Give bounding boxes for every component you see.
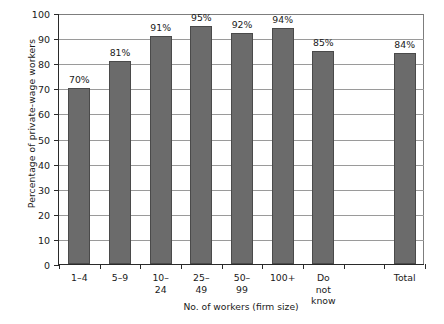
bar[interactable]	[190, 26, 212, 264]
category-slot: 81%5–9	[100, 14, 141, 264]
x-axis-tick-label: 1–4	[71, 272, 87, 284]
x-axis-tick	[181, 264, 182, 269]
bar-value-label: 84%	[394, 39, 415, 50]
y-axis-tick-label: 0	[44, 260, 50, 271]
x-axis-tick-label: 100+	[270, 272, 296, 284]
x-axis-tick	[384, 264, 385, 269]
category-slot	[344, 14, 385, 264]
bar-value-label: 94%	[272, 14, 293, 25]
y-axis-tick-label: 80	[38, 59, 50, 70]
category-slot: 91%10–24	[140, 14, 181, 264]
y-axis-tick-label: 20	[38, 209, 50, 220]
x-axis-tick-label: Total	[394, 272, 416, 284]
y-axis-tick-label: 100	[32, 9, 50, 20]
category-slot: 84%Total	[384, 14, 425, 264]
x-axis-tick-label: 10–24	[150, 272, 170, 295]
bar[interactable]	[109, 61, 131, 264]
x-axis-tick-label: 25–49	[191, 272, 211, 295]
category-slot: 85%Do not know	[303, 14, 344, 264]
bar[interactable]	[394, 53, 416, 264]
bar-value-label: 95%	[191, 12, 212, 23]
y-axis-tick-label: 70	[38, 84, 50, 95]
category-slot: 92%50–99	[222, 14, 263, 264]
x-axis-tick	[100, 264, 101, 269]
x-axis-tick-label: 50–99	[232, 272, 252, 295]
y-axis-title: Percentage of private-wage workers	[26, 0, 37, 249]
bar-value-label: 91%	[150, 22, 171, 33]
y-axis-tick-label: 50	[38, 134, 50, 145]
bar-chart: Percentage of private-wage workers 01020…	[0, 0, 444, 324]
category-slot: 70%1–4	[59, 14, 100, 264]
x-axis-tick-label: 5–9	[112, 272, 128, 284]
x-axis-tick	[262, 264, 263, 269]
x-axis-tick	[222, 264, 223, 269]
x-axis-tick	[140, 264, 141, 269]
y-axis-tick-label: 60	[38, 109, 50, 120]
bar[interactable]	[68, 88, 90, 264]
x-axis-tick	[303, 264, 304, 269]
y-axis-tick-label: 30	[38, 184, 50, 195]
category-slot: 95%25–49	[181, 14, 222, 264]
bar-value-label: 85%	[313, 37, 334, 48]
y-axis-tick-label: 10	[38, 234, 50, 245]
bar[interactable]	[150, 36, 172, 264]
y-axis-tick-label: 40	[38, 159, 50, 170]
category-slot: 94%100+	[262, 14, 303, 264]
x-axis-tick	[344, 264, 345, 269]
bar[interactable]	[312, 51, 334, 264]
x-axis-title: No. of workers (firm size)	[58, 301, 424, 312]
bar-value-label: 70%	[69, 74, 90, 85]
bar[interactable]	[231, 33, 253, 264]
bar-value-label: 92%	[232, 19, 253, 30]
x-axis-tick	[59, 264, 60, 269]
bar-series: 70%1–481%5–991%10–2495%25–4992%50–9994%1…	[59, 14, 424, 264]
bar[interactable]	[272, 28, 294, 264]
y-axis-tick-label: 90	[38, 34, 50, 45]
plot-area: 0102030405060708090100 70%1–481%5–991%10…	[58, 14, 424, 265]
x-axis-tick	[425, 264, 426, 269]
bar-value-label: 81%	[110, 47, 131, 58]
